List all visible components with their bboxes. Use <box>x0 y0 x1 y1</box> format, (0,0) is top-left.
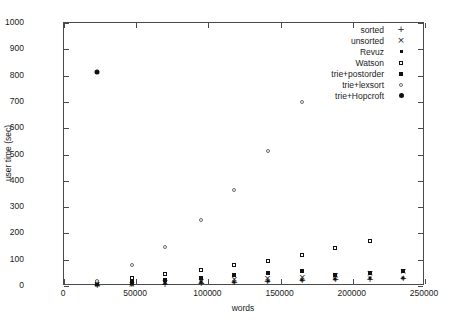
x-tick-label: 0 <box>61 288 66 298</box>
y-tick-label: 700 <box>10 96 24 106</box>
marker-filled-square-small-icon <box>400 50 403 53</box>
data-point-revuz <box>369 277 372 280</box>
x-tick-label: 200000 <box>338 288 366 298</box>
y-tick-mark <box>418 233 423 234</box>
legend-entry-revuz: Revuz <box>230 46 418 57</box>
data-point-watson <box>266 259 270 263</box>
y-tick-mark <box>418 260 423 261</box>
data-point-revuz <box>266 279 269 282</box>
data-point-revuz <box>334 278 337 281</box>
y-tick-mark <box>418 23 423 24</box>
legend-label: Revuz <box>360 47 384 57</box>
scatter-chart-figure: user time (sec) words 010020030040050060… <box>0 0 452 326</box>
data-point-revuz <box>200 281 203 284</box>
y-tick-mark <box>64 49 69 50</box>
x-tick-label: 250000 <box>410 288 438 298</box>
y-tick-mark <box>418 102 423 103</box>
x-tick-mark <box>136 23 137 28</box>
y-tick-mark <box>64 181 69 182</box>
legend-entry-trie-hopcroft: trie+Hopcroft <box>230 90 418 101</box>
x-tick-mark <box>425 279 426 284</box>
data-point-trie-postorder <box>266 271 270 275</box>
data-point-revuz <box>301 278 304 281</box>
legend-entry-sorted: sorted+ <box>230 24 418 35</box>
data-point-watson <box>333 246 337 250</box>
legend-marker <box>384 90 418 101</box>
y-tick-mark <box>418 49 423 50</box>
y-tick-mark <box>418 181 423 182</box>
y-tick-mark <box>418 207 423 208</box>
legend-entry-trie-postorder: trie+postorder <box>230 68 418 79</box>
data-point-trie-postorder <box>333 273 337 277</box>
data-point-trie-lexsort <box>95 279 99 283</box>
data-point-watson <box>199 268 203 272</box>
y-tick-mark <box>64 207 69 208</box>
legend-marker <box>384 79 418 90</box>
data-point-trie-postorder <box>163 278 167 282</box>
legend-label: trie+postorder <box>331 69 384 79</box>
marker-open-circle-icon <box>399 83 403 87</box>
y-tick-mark <box>418 128 423 129</box>
y-tick-mark <box>418 286 423 287</box>
x-tick-mark <box>64 23 65 28</box>
y-tick-mark <box>64 155 69 156</box>
marker-plus-icon: + <box>397 25 405 34</box>
x-tick-mark <box>208 279 209 284</box>
y-tick-label: 1000 <box>5 17 24 27</box>
x-tick-label: 150000 <box>265 288 293 298</box>
data-point-revuz <box>233 280 236 283</box>
data-point-watson <box>300 253 304 257</box>
data-point-revuz <box>164 282 167 285</box>
marker-filled-circle-icon <box>399 93 404 98</box>
chart-legend: sorted+unsorted×RevuzWatsontrie+postorde… <box>230 24 418 101</box>
y-tick-mark <box>64 76 69 77</box>
legend-marker <box>384 57 418 68</box>
y-tick-label: 300 <box>10 201 24 211</box>
y-tick-mark <box>64 233 69 234</box>
data-point-trie-postorder <box>300 269 304 273</box>
data-point-trie-lexsort <box>232 188 236 192</box>
legend-entry-trie-lexsort: trie+lexsort <box>230 79 418 90</box>
data-point-trie-lexsort <box>130 263 134 267</box>
y-tick-mark <box>64 286 69 287</box>
legend-marker: + <box>384 24 418 35</box>
legend-label: trie+lexsort <box>342 80 384 90</box>
x-tick-mark <box>281 279 282 284</box>
legend-marker <box>384 46 418 57</box>
marker-open-square-icon <box>399 61 403 65</box>
y-tick-label: 900 <box>10 43 24 53</box>
data-point-watson <box>232 263 236 267</box>
data-point-trie-postorder <box>199 276 203 280</box>
data-point-trie-lexsort <box>266 149 270 153</box>
data-point-trie-lexsort <box>199 218 203 222</box>
x-tick-mark <box>64 279 65 284</box>
x-tick-mark <box>425 23 426 28</box>
legend-label: sorted <box>360 25 384 35</box>
y-tick-mark <box>64 128 69 129</box>
marker-cross-icon: × <box>397 36 405 45</box>
y-tick-mark <box>64 260 69 261</box>
legend-label: trie+Hopcroft <box>335 91 384 101</box>
y-tick-mark <box>418 155 423 156</box>
x-tick-label: 100000 <box>193 288 221 298</box>
data-point-trie-hopcroft <box>95 70 100 75</box>
data-point-trie-lexsort <box>163 245 167 249</box>
x-tick-mark <box>136 279 137 284</box>
data-point-trie-postorder <box>130 280 134 284</box>
data-point-trie-postorder <box>368 271 372 275</box>
y-tick-label: 0 <box>19 280 24 290</box>
x-tick-mark <box>208 23 209 28</box>
y-tick-label: 200 <box>10 227 24 237</box>
legend-entry-unsorted: unsorted× <box>230 35 418 46</box>
x-tick-mark <box>353 279 354 284</box>
y-tick-mark <box>64 102 69 103</box>
legend-marker: × <box>384 35 418 46</box>
y-tick-label: 800 <box>10 70 24 80</box>
legend-label: unsorted <box>351 36 384 46</box>
data-point-revuz <box>402 276 405 279</box>
legend-label: Watson <box>355 58 384 68</box>
x-tick-label: 50000 <box>123 288 147 298</box>
y-tick-mark <box>418 76 423 77</box>
y-tick-label: 600 <box>10 122 24 132</box>
marker-filled-square-icon <box>399 72 403 76</box>
